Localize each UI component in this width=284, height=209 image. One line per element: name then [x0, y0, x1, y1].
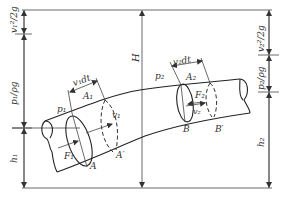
label-A: A — [89, 161, 97, 171]
label-B: B — [182, 124, 190, 134]
label-A1: A₁ — [82, 91, 93, 101]
label-F1: F₁ — [63, 151, 74, 161]
v2-arrow — [186, 103, 205, 106]
label-h1: h₁ — [9, 154, 19, 163]
label-v1: v₁ — [112, 110, 121, 120]
label-A-prime: A′ — [115, 150, 125, 160]
label-v2: v₂ — [193, 107, 201, 116]
label-h2: h₂ — [256, 137, 266, 147]
label-B-prime: B′ — [214, 124, 224, 134]
label-F2: F₂ — [194, 90, 205, 100]
label-p2-head: p₂/ρg — [256, 66, 266, 90]
label-A2: A₂ — [185, 72, 196, 82]
label-v2dt: v₂dt — [172, 54, 192, 67]
label-v1-head: v₁²/2g — [9, 6, 19, 33]
bernoulli-diagram: v₁²/2g p₁/ρg h₁ H v₂²/2g p₂/ρg h₂ v₁dt A… — [0, 0, 284, 209]
section-B-prime — [206, 83, 217, 117]
section-A-prime — [101, 100, 117, 152]
label-p2: p₂ — [155, 71, 165, 81]
label-v1dt: v₁dt — [71, 72, 92, 88]
label-p1-head: p₁/ρg — [9, 81, 19, 105]
label-v2-head: v₂²/2g — [256, 25, 266, 52]
label-H: H — [130, 53, 141, 63]
v1-arrow — [86, 124, 112, 133]
label-p1: p₁ — [57, 104, 66, 114]
